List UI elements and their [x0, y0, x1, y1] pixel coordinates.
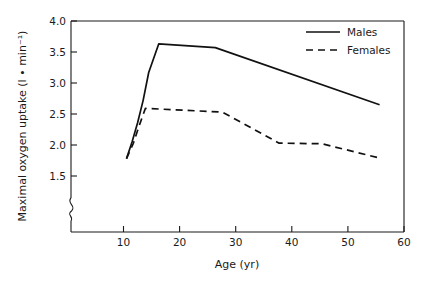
y-tick-labels: 4.0 3.5 3.0 2.5 2.0 1.5: [49, 15, 66, 182]
y-tick-marks: [71, 21, 77, 176]
x-tick-label-10: 10: [117, 236, 130, 248]
x-axis-title: Age (yr): [215, 258, 259, 271]
x-tick-labels: 10 20 30 40 50 60: [117, 236, 411, 248]
chart-canvas: 4.0 3.5 3.0 2.5 2.0 1.5 10 20 30 40 50 6…: [0, 0, 429, 281]
y-tick-label-2-5: 2.5: [49, 108, 66, 120]
x-tick-marks: [124, 226, 405, 232]
y-tick-label-3-0: 3.0: [49, 77, 66, 89]
x-tick-label-30: 30: [229, 236, 242, 248]
legend-label-males: Males: [347, 26, 377, 38]
y-tick-label-1-5: 1.5: [49, 170, 66, 182]
data-series-group: [127, 44, 380, 159]
chart-figure: 4.0 3.5 3.0 2.5 2.0 1.5 10 20 30 40 50 6…: [0, 0, 429, 281]
x-tick-label-50: 50: [341, 236, 354, 248]
series-line-females: [127, 108, 380, 158]
y-axis-title: Maximal oxygen uptake (l • min⁻¹): [16, 31, 29, 222]
y-tick-label-2-0: 2.0: [49, 139, 66, 151]
y-tick-label-3-5: 3.5: [49, 46, 66, 58]
y-tick-label-4-0: 4.0: [49, 15, 66, 27]
series-line-males: [127, 44, 380, 159]
y-axis-break-icon: [70, 198, 74, 221]
x-tick-label-40: 40: [285, 236, 298, 248]
legend-label-females: Females: [347, 44, 390, 56]
x-tick-label-20: 20: [173, 236, 186, 248]
x-tick-label-60: 60: [397, 236, 410, 248]
chart-legend: Males Females: [306, 26, 390, 56]
